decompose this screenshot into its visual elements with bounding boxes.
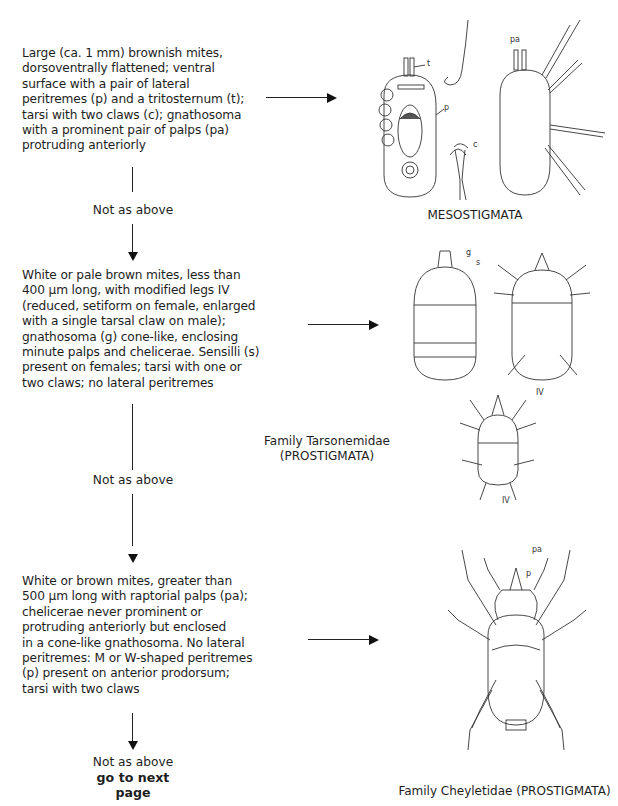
tarsonemidae-illustration: g s IV IV	[400, 245, 600, 505]
caption-cheyletidae: Family Cheyletidae (PROSTIGMATA)	[392, 784, 617, 799]
arrow-right-2-head	[369, 320, 379, 330]
connector-line-1a	[132, 167, 133, 192]
text-line: present on females; tarsi with one or	[22, 360, 282, 375]
tarsonemidae-male-ventral	[460, 395, 536, 500]
arrow-right-2-shaft	[308, 324, 370, 325]
mesostigmata-dorsal-view	[500, 20, 605, 195]
cheyletidae-illustration: pa p	[440, 540, 600, 760]
caption-mesostigmata: MESOSTIGMATA	[415, 208, 535, 223]
text-line: with a single tarsal claw on male);	[22, 314, 282, 329]
label-t: t	[427, 59, 430, 68]
tarsonemidae-female-dorsal	[414, 251, 476, 380]
text-line: 500 µm long with raptorial palps (pa);	[22, 589, 282, 604]
branch-label-1: Not as above	[72, 203, 194, 218]
connector-line-2a	[132, 404, 133, 470]
text-line: protruding anteriorly but enclosed	[22, 620, 282, 635]
tarsonemidae-female-ventral	[494, 253, 590, 380]
go-to-next-page-line1: go to next	[72, 770, 194, 785]
arrow-right-3-shaft	[308, 639, 370, 640]
text-line: White or brown mites, greater than	[22, 574, 282, 589]
peritreme-detail	[444, 20, 468, 85]
arrow-right-3-head	[369, 635, 379, 645]
label-p: p	[526, 569, 531, 578]
connector-line-1b	[132, 224, 133, 252]
text-line: (reduced, setiform on female, enlarged	[22, 299, 282, 314]
text-line: dorsoventrally flattened; ventral	[22, 61, 282, 76]
label-c: c	[473, 140, 477, 149]
connector-line-3	[132, 713, 133, 743]
label-s: s	[476, 258, 480, 267]
key-step-1-description: Large (ca. 1 mm) brownish mites, dorsove…	[22, 46, 282, 154]
label-pa: pa	[532, 545, 542, 554]
caption-tarsonemidae-line2: (PROSTIGMATA)	[262, 449, 392, 464]
arrow-down-3-head	[128, 741, 138, 750]
text-line: 400 µm long, with modified legs IV	[22, 283, 282, 298]
label-p: p	[444, 103, 449, 112]
connector-line-2b	[132, 494, 133, 546]
arrow-right-1-shaft	[266, 97, 328, 98]
text-line: Large (ca. 1 mm) brownish mites,	[22, 46, 282, 61]
mesostigmata-ventral-view	[379, 58, 444, 197]
text-line: two claws; no lateral peritremes	[22, 376, 282, 391]
cheyletidae-body	[448, 550, 586, 750]
text-line: surface with a pair of lateral	[22, 77, 282, 92]
text-line: peritremes: M or W-shaped peritremes	[22, 651, 282, 666]
arrow-right-1-head	[327, 93, 337, 103]
label-iv-female: IV	[536, 388, 544, 397]
text-line: in a cone-like gnathosoma. No lateral	[22, 636, 282, 651]
go-to-next-page-line2: page	[72, 785, 194, 800]
label-iv-male: IV	[502, 496, 510, 505]
key-step-3-description: White or brown mites, greater than 500 µ…	[22, 574, 282, 697]
branch-label-3: Not as above	[72, 755, 194, 770]
text-line: peritremes (p) and a tritosternum (t);	[22, 92, 282, 107]
label-g: g	[466, 248, 471, 257]
key-step-2-description: White or pale brown mites, less than 400…	[22, 268, 282, 391]
text-line: (p) present on anterior prodorsum;	[22, 666, 282, 681]
arrow-down-2-head	[128, 554, 138, 563]
text-line: gnathosoma (g) cone-like, enclosing	[22, 330, 282, 345]
text-line: White or pale brown mites, less than	[22, 268, 282, 283]
mesostigmata-illustration: t p c pa	[370, 15, 610, 205]
label-pa: pa	[510, 35, 520, 44]
text-line: with a prominent pair of palps (pa)	[22, 123, 282, 138]
text-line: minute palps and chelicerae. Sensilli (s…	[22, 345, 282, 360]
tarsal-claw-detail	[450, 144, 468, 200]
branch-label-2: Not as above	[72, 473, 194, 488]
text-line: protruding anteriorly	[22, 138, 282, 153]
caption-tarsonemidae-line1: Family Tarsonemidae	[262, 434, 392, 449]
arrow-down-1-head	[128, 252, 138, 261]
text-line: tarsi with two claws	[22, 682, 282, 697]
text-line: tarsi with two claws (c); gnathosoma	[22, 108, 282, 123]
text-line: chelicerae never prominent or	[22, 605, 282, 620]
